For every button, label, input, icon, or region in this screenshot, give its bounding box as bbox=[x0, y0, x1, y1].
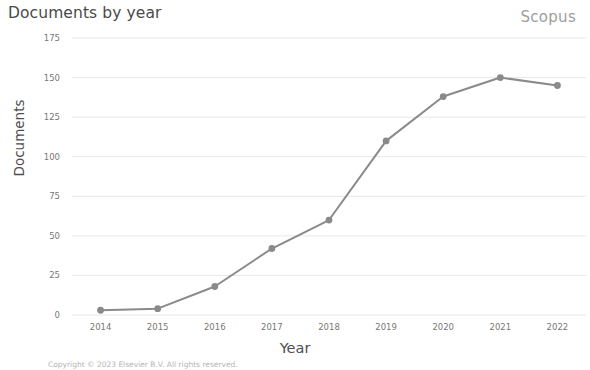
data-point-marker[interactable] bbox=[440, 93, 447, 100]
data-point-marker[interactable] bbox=[326, 217, 333, 224]
series-documents bbox=[97, 74, 561, 313]
data-point-marker[interactable] bbox=[554, 82, 561, 89]
data-point-marker[interactable] bbox=[211, 283, 218, 290]
data-point-marker[interactable] bbox=[154, 305, 161, 312]
plot-area bbox=[0, 0, 590, 370]
data-point-marker[interactable] bbox=[383, 137, 390, 144]
data-point-marker[interactable] bbox=[497, 74, 504, 81]
documents-by-year-chart: Documents by year Scopus Documents Year … bbox=[0, 0, 590, 370]
data-point-marker[interactable] bbox=[97, 307, 104, 314]
data-point-marker[interactable] bbox=[268, 245, 275, 252]
copyright-notice: Copyright © 2023 Elsevier B.V. All right… bbox=[48, 360, 238, 369]
